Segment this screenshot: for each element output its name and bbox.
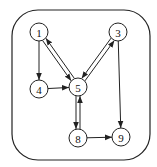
graph-diagram: 134589 [0,0,157,167]
node-label: 3 [115,27,121,39]
edge-3-to-5 [82,38,111,78]
edge-5-to-3 [85,40,114,80]
node-4: 4 [30,80,48,98]
node-label: 9 [118,132,124,144]
node-label: 1 [36,27,42,39]
edge-8-to-9 [87,137,112,138]
edge-5-to-1 [46,38,75,78]
node-label: 8 [75,133,81,145]
node-8: 8 [69,129,87,147]
edge-3-to-9 [118,41,120,128]
node-3: 3 [109,23,127,41]
node-9: 9 [112,128,130,146]
node-label: 5 [75,82,81,94]
node-label: 4 [36,84,42,96]
edge-1-to-5 [43,40,72,80]
edge-4-to-5 [48,87,69,88]
node-1: 1 [30,23,48,41]
node-5: 5 [69,78,87,96]
